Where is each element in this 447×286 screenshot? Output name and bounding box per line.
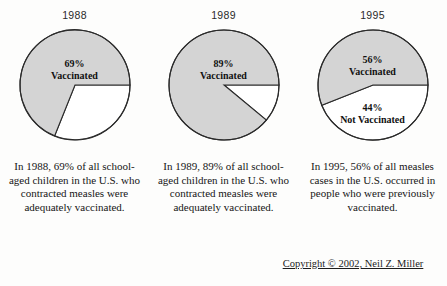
chart-panel-1989: 1989 89% Vaccinated In 1989, 89% of all … bbox=[149, 8, 298, 248]
pie-chart-1995: 56% Vaccinated 44% Not Vaccinated bbox=[298, 22, 447, 148]
caption-1989: In 1989, 89% of all school-aged children… bbox=[153, 160, 294, 214]
pie-svg-1989 bbox=[159, 22, 289, 148]
year-label-1988: 1988 bbox=[0, 8, 149, 22]
pie-svg-1988 bbox=[10, 22, 140, 148]
pie-chart-1988: 69% Vaccinated bbox=[0, 22, 149, 148]
caption-1995: In 1995, 56% of all measles cases in the… bbox=[302, 160, 443, 214]
year-label-1989: 1989 bbox=[149, 8, 298, 22]
copyright-notice: Copyright © 2002, Neil Z. Miller bbox=[263, 258, 443, 269]
year-label-1995: 1995 bbox=[298, 8, 447, 22]
pie-chart-1989: 89% Vaccinated bbox=[149, 22, 298, 148]
caption-1988: In 1988, 69% of all school-aged children… bbox=[4, 160, 145, 214]
figure-canvas: 1988 69% Vaccinated In 1988, 69% of all … bbox=[0, 0, 447, 286]
chart-panel-1988: 1988 69% Vaccinated In 1988, 69% of all … bbox=[0, 8, 149, 248]
chart-panel-1995: 1995 56% Vaccinated 44% Not Vaccinated I… bbox=[298, 8, 447, 248]
pie-svg-1995 bbox=[308, 22, 438, 148]
